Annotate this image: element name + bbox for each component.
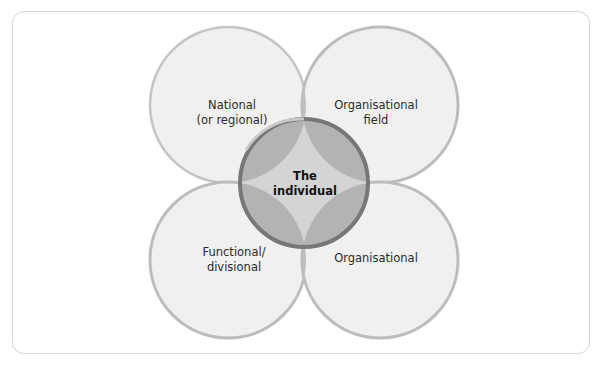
label-organisational: Organisational <box>334 251 418 265</box>
venn-diagram: National(or regional) Organisationalfiel… <box>0 0 608 367</box>
label-functional-divisional: Functional/divisional <box>202 245 265 274</box>
